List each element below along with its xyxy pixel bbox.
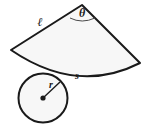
radius-label-r: r (49, 79, 53, 90)
slant-label-ell: ℓ (37, 15, 42, 29)
geometry-figure: θ ℓ s r (0, 0, 153, 127)
arc-label-s: s (74, 70, 79, 81)
circle-center-dot (40, 95, 45, 100)
angle-label-theta: θ (79, 6, 86, 20)
figure-canvas: θ ℓ s r (0, 0, 153, 127)
sector-shape (11, 5, 140, 76)
